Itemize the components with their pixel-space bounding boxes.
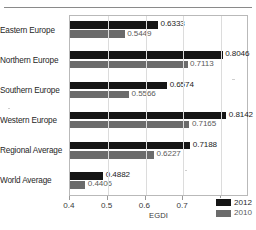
gridline	[108, 16, 109, 195]
bar-value-label: 0.7165	[192, 120, 216, 128]
bar-value-label: 0.6227	[157, 150, 181, 158]
gridline	[221, 16, 222, 195]
bar-value-label: 0.5449	[127, 30, 151, 38]
bar-value-label: 0.8046	[225, 50, 249, 58]
x-tick-label: 0.7	[177, 201, 188, 210]
legend: 2012 2010	[214, 198, 253, 218]
bar-2010-world-average[interactable]	[70, 181, 85, 189]
bar-2012-southern-europe[interactable]	[70, 82, 167, 90]
bar-2010-western-europe[interactable]	[70, 121, 189, 129]
legend-item-2010[interactable]: 2010	[216, 209, 252, 217]
category-label: Eastern Europe	[0, 15, 63, 45]
gridline	[146, 16, 147, 195]
scan-artifact	[185, 170, 187, 171]
plot-area: 0.63330.54490.80460.71130.65740.55660.81…	[69, 15, 248, 196]
bar-value-label: 0.4882	[106, 171, 130, 179]
category-label: World Average	[0, 166, 63, 196]
header-rule	[4, 7, 252, 8]
bar-value-label: 0.7188	[193, 141, 217, 149]
category-label: Regional Average	[0, 136, 63, 166]
legend-swatch-2010	[216, 210, 231, 217]
legend-label-2012: 2012	[234, 199, 252, 207]
category-label: Northern Europe	[0, 45, 63, 75]
bar-2010-regional-average[interactable]	[70, 151, 154, 159]
scan-artifact	[232, 79, 235, 80]
x-tick	[182, 196, 183, 200]
x-tick	[145, 196, 146, 200]
category-label: Western Europe	[0, 106, 63, 136]
x-tick	[107, 196, 108, 200]
x-tick-label: 0.4	[63, 201, 74, 210]
bar-value-label: 0.8142	[229, 111, 253, 119]
bar-2010-eastern-europe[interactable]	[70, 30, 125, 38]
figure-canvas: Eastern EuropeNorthern EuropeSouthern Eu…	[0, 0, 256, 230]
category-axis: Eastern EuropeNorthern EuropeSouthern Eu…	[0, 15, 67, 196]
bar-value-label: 0.5566	[132, 90, 156, 98]
scan-artifact	[8, 108, 10, 109]
bar-value-label: 0.7113	[190, 60, 214, 68]
bar-value-label: 0.6333	[161, 20, 185, 28]
legend-label-2010: 2010	[234, 209, 252, 217]
x-tick-label: 0.6	[139, 201, 150, 210]
bar-2010-southern-europe[interactable]	[70, 91, 129, 99]
category-label: Southern Europe	[0, 75, 63, 105]
bar-value-label: 0.6574	[170, 81, 194, 89]
gridline	[183, 16, 184, 195]
legend-item-2012[interactable]: 2012	[216, 199, 252, 207]
bar-2010-northern-europe[interactable]	[70, 61, 188, 69]
x-tick	[69, 196, 70, 200]
legend-swatch-2012	[216, 199, 231, 206]
x-tick-label: 0.5	[101, 201, 112, 210]
